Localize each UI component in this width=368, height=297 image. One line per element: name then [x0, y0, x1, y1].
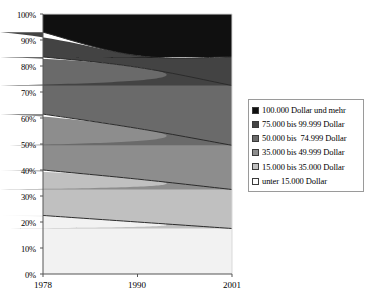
- legend-swatch-icon: [252, 149, 259, 156]
- legend-item-label: 15.000 bis 35.000 Dollar: [262, 163, 344, 172]
- legend-item-label: 35.000 bis 49.999 Dollar: [262, 148, 344, 157]
- chart-legend: 100.000 Dollar und mehr 75.000 bis 99.99…: [248, 99, 364, 192]
- legend-item-label: 50.000 bis 74.999 Dollar: [262, 134, 346, 143]
- y-tick-label-100: 100%: [5, 11, 36, 20]
- legend-swatch-icon: [252, 178, 259, 185]
- legend-swatch-icon: [252, 135, 259, 142]
- y-tick-label-70: 70%: [5, 89, 36, 98]
- legend-item-unter-15000[interactable]: unter 15.000 Dollar: [252, 174, 361, 188]
- stacked-area-chart: 100% 90% 80% 70% 60% 50% 40% 30% 20% 10%…: [0, 0, 368, 297]
- x-tick-label-2001: 2001: [212, 281, 252, 290]
- y-tick-label-40: 40%: [5, 167, 36, 176]
- y-tick-label-90: 90%: [5, 37, 36, 46]
- legend-item-35000-49999[interactable]: 35.000 bis 49.999 Dollar: [252, 146, 361, 160]
- y-tick-label-10: 10%: [5, 245, 36, 254]
- legend-swatch-icon: [252, 107, 259, 114]
- legend-item-label: 100.000 Dollar und mehr: [262, 106, 346, 115]
- legend-item-100000-und-mehr[interactable]: 100.000 Dollar und mehr: [252, 103, 361, 117]
- legend-item-15000-35000[interactable]: 15.000 bis 35.000 Dollar: [252, 160, 361, 174]
- y-tick-label-20: 20%: [5, 219, 36, 228]
- x-tick-label-1990: 1990: [117, 281, 157, 290]
- y-tick-label-0: 0%: [5, 271, 36, 280]
- y-tick-label-80: 80%: [5, 63, 36, 72]
- y-tick-label-30: 30%: [5, 193, 36, 202]
- legend-item-75000-99999[interactable]: 75.000 bis 99.999 Dollar: [252, 117, 361, 131]
- legend-swatch-icon: [252, 163, 259, 170]
- x-tick-label-1978: 1978: [23, 281, 63, 290]
- legend-item-label: 75.000 bis 99.999 Dollar: [262, 120, 344, 129]
- legend-item-label: unter 15.000 Dollar: [262, 177, 327, 186]
- y-tick-label-60: 60%: [5, 115, 36, 124]
- legend-swatch-icon: [252, 121, 259, 128]
- y-tick-label-50: 50%: [5, 141, 36, 150]
- legend-item-50000-74999[interactable]: 50.000 bis 74.999 Dollar: [252, 131, 361, 145]
